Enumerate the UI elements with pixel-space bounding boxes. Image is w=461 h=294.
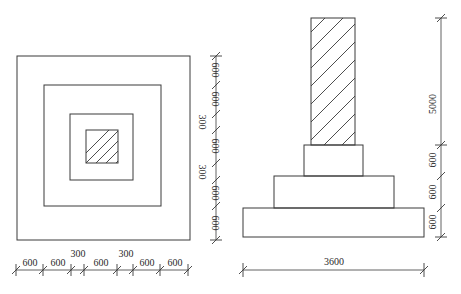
column-height-label: 5000 — [427, 94, 438, 114]
dim-label: 300 — [197, 115, 208, 130]
plan-vertical-dimension: 600 600 300 600 300 600 600 — [197, 52, 222, 244]
plan-outer-step — [17, 56, 190, 240]
elevation-vertical-dimension: 5000 600 600 600 — [427, 14, 447, 241]
dim-label: 600 — [210, 216, 221, 231]
dim-label: 600 — [210, 92, 221, 107]
hatch-pattern — [301, 0, 355, 204]
elevation-top-step — [304, 145, 363, 176]
dim-label: 600 — [23, 257, 38, 268]
dim-label: 600 — [168, 257, 183, 268]
elevation-bottom-step — [243, 208, 424, 237]
step-height-label: 600 — [427, 185, 438, 200]
plan-middle-step — [44, 85, 161, 206]
dim-label: 600 — [210, 63, 221, 78]
elevation-column — [301, 0, 355, 204]
elevation-middle-step — [274, 176, 394, 208]
hatch-pattern — [76, 130, 149, 163]
foundation-drawing: 600 600 300 600 300 600 600 — [0, 0, 461, 294]
dim-label: 600 — [51, 257, 66, 268]
elevation-horizontal-dimension: 3600 — [239, 256, 428, 277]
step-height-label: 600 — [427, 153, 438, 168]
elevation-view: 5000 600 600 600 3600 — [239, 0, 447, 277]
dim-label: 600 — [210, 139, 221, 154]
dim-label: 600 — [140, 257, 155, 268]
dim-label: 300 — [119, 248, 134, 259]
plan-view: 600 600 300 600 300 600 600 — [12, 52, 222, 276]
step-height-label: 600 — [427, 215, 438, 230]
dim-label: 300 — [71, 248, 86, 259]
dim-label: 600 — [94, 257, 109, 268]
base-width-label: 3600 — [324, 256, 344, 267]
dim-label: 600 — [210, 186, 221, 201]
dim-label: 300 — [197, 165, 208, 180]
plan-column-section — [76, 130, 149, 163]
plan-horizontal-dimension: 600 600 300 600 300 600 600 — [12, 248, 192, 276]
